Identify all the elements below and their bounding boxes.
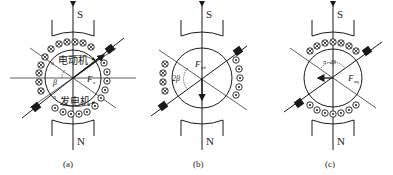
svg-text:电动机: 电动机 [58,54,88,66]
svg-text:F: F [347,73,354,83]
svg-text:a: a [93,80,96,85]
svg-text:2β: 2β [172,74,180,83]
svg-text:n: n [53,94,56,100]
svg-text:N: N [337,135,345,147]
svg-text:发电机: 发电机 [60,95,90,107]
svg-text:aq: aq [354,79,359,84]
svg-text:β: β [52,78,57,87]
panel-b [151,6,247,150]
svg-text:(c): (c) [325,159,335,169]
svg-text:F: F [194,59,201,69]
svg-text:π−2β: π−2β [323,59,336,65]
svg-text:(b): (b) [193,159,204,169]
svg-text:S: S [77,8,83,20]
svg-text:S: S [337,8,343,20]
svg-text:F: F [86,74,93,84]
panel-c [284,6,382,150]
svg-text:N: N [206,135,214,147]
svg-text:ad: ad [201,65,206,70]
svg-text:N: N [77,135,85,147]
svg-text:S: S [206,8,212,20]
svg-text:(a): (a) [63,159,73,169]
armature-reaction-diagram: S N 电动机 发电机 n n β F a (a) S N 2β F ad (b… [0,0,393,175]
svg-text:n: n [51,60,54,66]
panel-a [10,6,136,150]
